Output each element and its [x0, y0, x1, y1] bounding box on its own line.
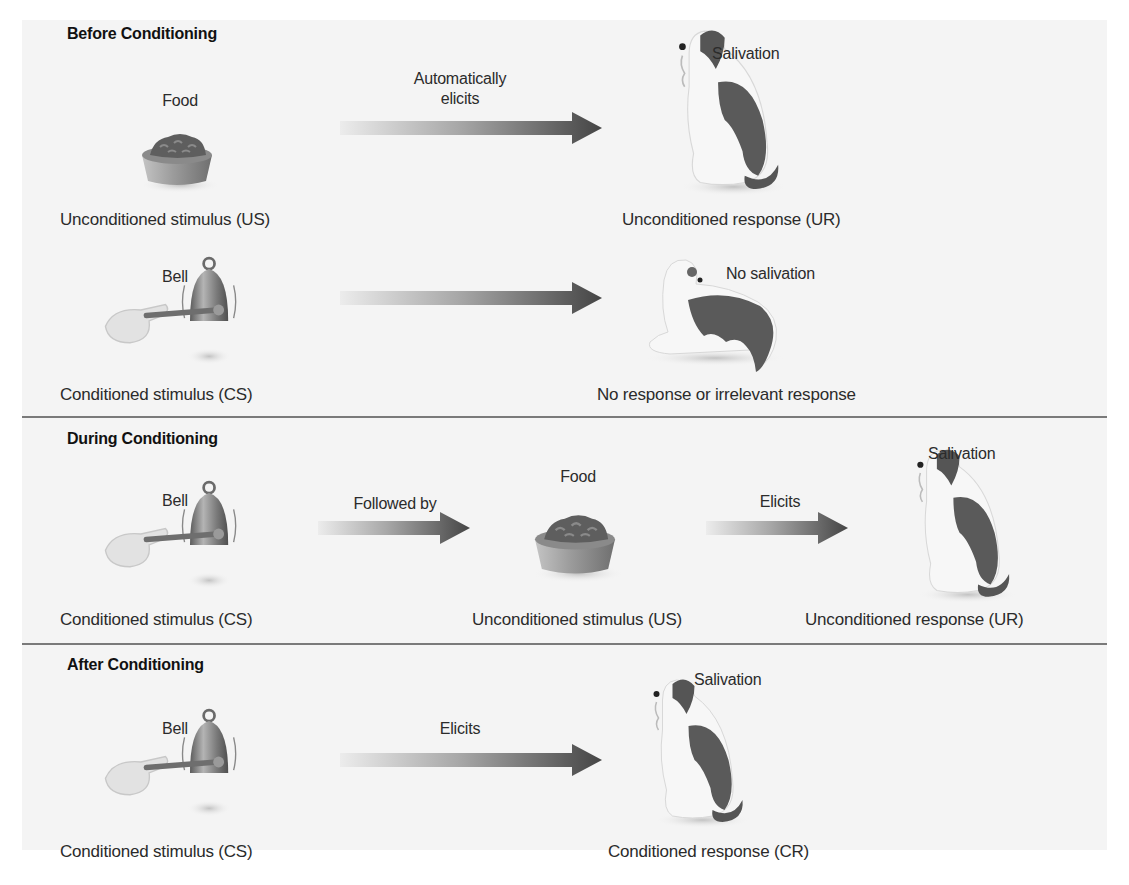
salivating-dog-icon — [630, 670, 755, 830]
food-label: Food — [140, 92, 220, 110]
food-bowl-icon — [520, 505, 630, 585]
salivation-label: Salivation — [928, 445, 995, 463]
unconditioned-stimulus-caption: Unconditioned stimulus (US) — [472, 610, 682, 630]
elicits-label: Elicits — [390, 720, 530, 738]
bell-icon — [100, 255, 250, 365]
arrow-elicits — [340, 744, 602, 776]
conditioned-stimulus-caption: Conditioned stimulus (CS) — [60, 842, 252, 862]
section-title-after: After Conditioning — [67, 656, 204, 674]
followed-by-label: Followed by — [320, 495, 470, 513]
arrow-automatically-elicits — [340, 112, 602, 144]
no-response-caption: No response or irrelevant response — [597, 385, 856, 405]
arrow-label-line1: Automatically — [370, 70, 550, 88]
section-title-before: Before Conditioning — [67, 25, 217, 43]
food-bowl-icon — [132, 125, 222, 195]
conditioned-stimulus-caption: Conditioned stimulus (CS) — [60, 385, 252, 405]
arrow-label-line2: elicits — [370, 90, 550, 108]
unconditioned-stimulus-caption: Unconditioned stimulus (US) — [60, 210, 270, 230]
arrow-no-response — [340, 282, 602, 314]
arrow-followed-by — [318, 512, 470, 544]
section-divider — [22, 416, 1107, 418]
conditioned-response-caption: Conditioned response (CR) — [608, 842, 809, 862]
conditioned-stimulus-caption: Conditioned stimulus (CS) — [60, 610, 252, 630]
food-label: Food — [538, 468, 618, 486]
unconditioned-response-caption: Unconditioned response (UR) — [622, 210, 841, 230]
elicits-label: Elicits — [720, 493, 840, 511]
bell-icon — [100, 707, 250, 817]
salivating-dog-icon — [890, 440, 1025, 605]
arrow-elicits — [706, 512, 848, 544]
unconditioned-response-caption: Unconditioned response (UR) — [805, 610, 1024, 630]
bell-icon — [100, 479, 250, 589]
salivation-label: Salivation — [694, 671, 761, 689]
no-salivation-label: No salivation — [726, 265, 815, 283]
section-title-during: During Conditioning — [67, 430, 218, 448]
section-divider — [22, 643, 1107, 645]
salivation-label: Salivation — [712, 45, 779, 63]
